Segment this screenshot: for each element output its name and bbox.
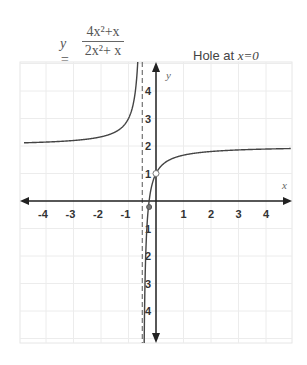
y-tick-label: 1: [145, 223, 151, 235]
y-axis-label: y: [165, 69, 171, 81]
x-tick-label: -2: [93, 208, 103, 220]
x-axis-label: x: [281, 179, 287, 191]
x-tick-label: 4: [263, 208, 270, 220]
x-axis-left-arrow-icon: [20, 197, 29, 205]
x-tick-label: 2: [208, 208, 214, 220]
y-tick-label: 4: [145, 85, 152, 97]
x-axis-right-arrow-icon: [283, 197, 292, 205]
x-tick-label: 3: [235, 208, 241, 220]
curve-left-branch: [24, 42, 142, 143]
function-graph: xy-4-3-2-1123443211234: [0, 0, 307, 365]
x-tick-label: 1: [180, 208, 186, 220]
y-tick-label: 3: [145, 113, 151, 125]
hole-marker: [153, 171, 159, 177]
y-tick-label: 4: [145, 305, 152, 317]
x-intercept-point: [147, 205, 152, 210]
x-tick-label: -4: [38, 208, 49, 220]
x-tick-label: -3: [66, 208, 76, 220]
y-tick-label: 3: [145, 278, 151, 290]
x-tick-label: -1: [121, 208, 131, 220]
y-tick-label: 2: [145, 140, 151, 152]
y-tick-label: 1: [145, 168, 151, 180]
